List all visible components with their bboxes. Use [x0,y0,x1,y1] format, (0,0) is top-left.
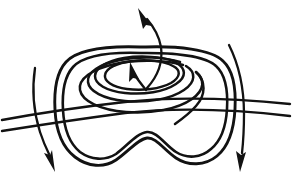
left-down-arrow-shaft [33,68,49,154]
figure-canvas: double-stranded rounded square loop with… [0,0,292,181]
knot-diagram-svg [0,0,292,181]
top-exit-arrow-head [138,8,152,29]
outer-rounded-loop [55,47,235,166]
right-down-arrow-head [236,151,246,172]
